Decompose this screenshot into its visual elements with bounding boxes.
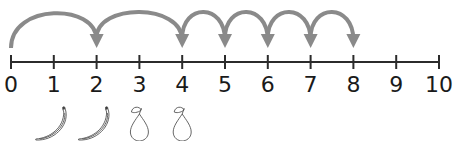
tick-label: 6: [253, 72, 283, 98]
pear-icon: [173, 107, 191, 141]
fruit-pictures: [36, 107, 191, 141]
number-line-diagram: [0, 0, 456, 141]
tick-label: 1: [39, 72, 69, 98]
number-line-axis: [11, 55, 439, 69]
jump-arc-0-to-2: [11, 13, 97, 48]
jump-arc-7-to-8: [311, 12, 354, 40]
jump-arc-6-to-7: [268, 12, 311, 40]
banana-icon: [79, 107, 109, 140]
tick-label: 2: [82, 72, 112, 98]
tick-label: 9: [381, 72, 411, 98]
banana-icon: [36, 107, 66, 140]
arrowhead-icon: [346, 34, 360, 48]
jump-arc-5-to-6: [225, 12, 268, 40]
tick-label: 3: [124, 72, 154, 98]
tick-label: 5: [210, 72, 240, 98]
tick-label: 10: [424, 72, 454, 98]
jump-arcs: [11, 12, 360, 48]
tick-label: 7: [296, 72, 326, 98]
tick-label: 4: [167, 72, 197, 98]
jump-arc-2-to-4: [97, 12, 183, 40]
tick-label: 8: [338, 72, 368, 98]
tick-label: 0: [0, 72, 26, 98]
jump-arc-4-to-5: [182, 12, 225, 40]
pear-icon: [130, 107, 148, 141]
